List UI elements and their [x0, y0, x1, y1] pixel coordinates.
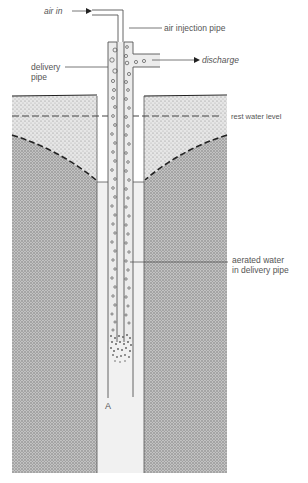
- airlift-pump-diagram: air in air injection pipe delivery pipe …: [0, 0, 308, 483]
- label-point-a: A: [105, 401, 111, 411]
- right-ground: [144, 95, 227, 473]
- label-delivery-pipe-1: delivery: [31, 62, 61, 72]
- label-rest-water-level: rest water level: [231, 112, 282, 121]
- air-in-arrow-icon: [86, 8, 92, 14]
- label-air-injection-pipe: air injection pipe: [164, 23, 226, 33]
- label-delivery-pipe-2: pipe: [31, 72, 47, 82]
- label-discharge: discharge: [202, 55, 239, 65]
- discharge-arrow-icon: [194, 57, 200, 63]
- left-ground: [12, 95, 97, 473]
- label-air-in: air in: [44, 6, 63, 16]
- air-injection-pipe: [72, 8, 123, 42]
- label-aerated-water-2: in delivery pipe: [232, 265, 289, 275]
- label-aerated-water-1: aerated water: [232, 255, 284, 265]
